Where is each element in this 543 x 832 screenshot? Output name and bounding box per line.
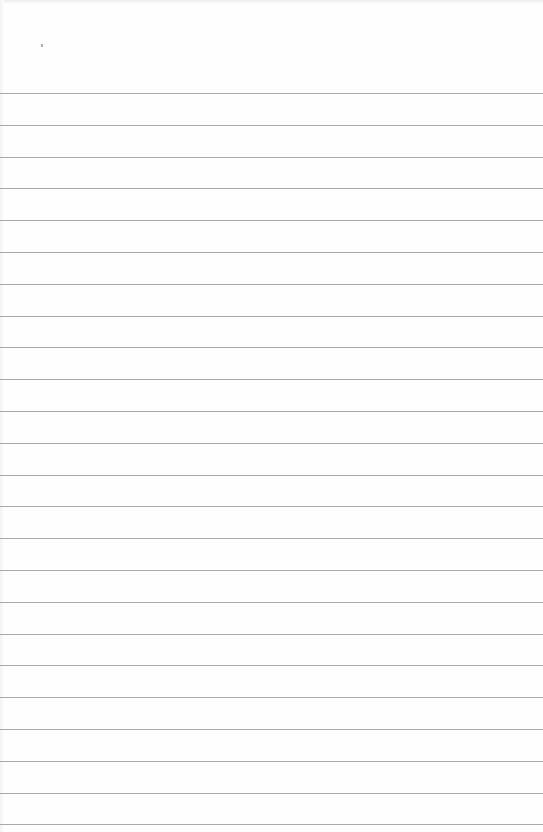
ruled-line — [0, 602, 543, 603]
ruled-line — [0, 665, 543, 666]
ruled-line — [0, 793, 543, 794]
ruled-line — [0, 93, 543, 94]
ruled-line — [0, 761, 543, 762]
ruled-line — [0, 157, 543, 158]
ruled-line — [0, 634, 543, 635]
ruled-line — [0, 347, 543, 348]
ruled-line — [0, 284, 543, 285]
paper-top-edge — [0, 0, 543, 4]
ruled-line — [0, 570, 543, 571]
ruled-line — [0, 824, 543, 825]
ruled-line — [0, 252, 543, 253]
ruled-line — [0, 316, 543, 317]
ruled-line — [0, 475, 543, 476]
ruled-line — [0, 443, 543, 444]
ruled-line — [0, 538, 543, 539]
ruled-line — [0, 125, 543, 126]
ruled-line — [0, 188, 543, 189]
ruled-line — [0, 411, 543, 412]
ruled-line — [0, 220, 543, 221]
ruled-line — [0, 729, 543, 730]
ruled-line — [0, 506, 543, 507]
ruled-line — [0, 379, 543, 380]
ruled-line — [0, 697, 543, 698]
paper-speck — [41, 44, 43, 47]
